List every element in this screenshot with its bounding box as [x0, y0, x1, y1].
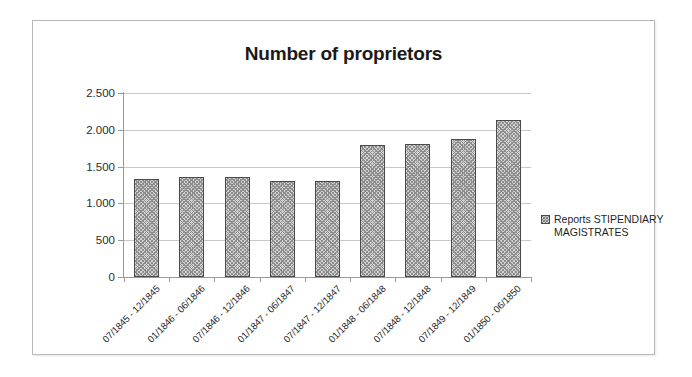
plot-area [124, 93, 531, 277]
chart-legend: Reports STIPENDIARY MAGISTRATES [541, 213, 673, 239]
y-axis-tick-label: 2.000 [45, 124, 115, 136]
bar [451, 139, 476, 277]
y-tick-mark [118, 93, 123, 94]
y-tick-mark [118, 240, 123, 241]
gridline [124, 130, 531, 131]
x-axis-line [123, 277, 532, 278]
bar [225, 177, 250, 277]
bar [315, 181, 340, 277]
y-axis-tick-label: 0 [45, 271, 115, 283]
y-tick-mark [118, 277, 123, 278]
x-tick-mark [486, 277, 487, 282]
y-axis-labels: 2.5002.0001.5001.0005000 [41, 21, 115, 377]
x-tick-mark [350, 277, 351, 282]
y-tick-mark [118, 203, 123, 204]
y-axis-tick-label: 1.000 [45, 197, 115, 209]
x-tick-mark [395, 277, 396, 282]
bar [496, 120, 521, 278]
x-tick-mark [169, 277, 170, 282]
x-tick-mark [124, 277, 125, 282]
legend-label: Reports STIPENDIARY MAGISTRATES [554, 213, 673, 239]
bar [270, 181, 295, 277]
y-axis-tick-label: 1.500 [45, 161, 115, 173]
x-tick-mark [214, 277, 215, 282]
x-tick-mark [260, 277, 261, 282]
bar [134, 179, 159, 277]
bar [405, 144, 430, 277]
x-tick-mark [531, 277, 532, 282]
crosshatch-square-icon [541, 215, 550, 224]
y-axis-tick-label: 500 [45, 234, 115, 246]
y-tick-mark [118, 167, 123, 168]
chart-frame: Number of proprietors 2.5002.0001.5001.0… [32, 20, 655, 355]
bar [179, 177, 204, 277]
bar [360, 145, 385, 277]
y-tick-mark [118, 130, 123, 131]
x-tick-mark [441, 277, 442, 282]
gridline [124, 93, 531, 94]
y-axis-tick-label: 2.500 [45, 87, 115, 99]
x-tick-mark [305, 277, 306, 282]
chart-title: Number of proprietors [33, 43, 654, 65]
